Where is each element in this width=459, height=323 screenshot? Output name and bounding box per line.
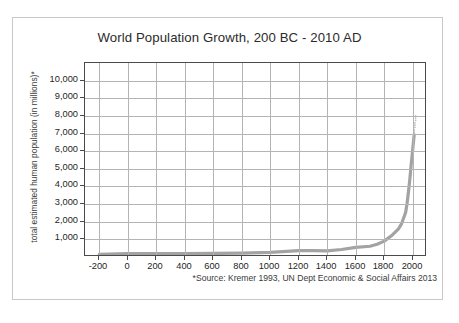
y-tick-label: 4,000 xyxy=(34,179,78,189)
y-axis-title: total estimated human population (in mil… xyxy=(27,58,41,256)
y-tick-mark xyxy=(80,185,84,186)
gridline-horizontal xyxy=(85,81,425,82)
chart-title: World Population Growth, 200 BC - 2010 A… xyxy=(0,30,459,45)
gridline-horizontal xyxy=(85,169,425,170)
y-tick-mark xyxy=(80,80,84,81)
x-tick-mark xyxy=(127,256,128,260)
y-tick-label: 9,000 xyxy=(34,91,78,101)
gridline-horizontal xyxy=(85,116,425,117)
projection-dot xyxy=(414,126,416,128)
x-tick-mark xyxy=(355,256,356,260)
y-tick-mark xyxy=(80,168,84,169)
gridline-vertical xyxy=(128,63,129,255)
y-tick-label: 10,000 xyxy=(34,74,78,84)
x-tick-mark xyxy=(383,256,384,260)
projection-dot xyxy=(414,122,416,124)
x-tick-mark xyxy=(241,256,242,260)
population-line xyxy=(99,135,414,255)
x-tick-mark xyxy=(184,256,185,260)
gridline-horizontal xyxy=(85,151,425,152)
gridline-vertical xyxy=(384,63,385,255)
plot-area xyxy=(84,62,426,256)
gridline-vertical xyxy=(299,63,300,255)
x-tick-mark xyxy=(98,256,99,260)
gridline-vertical xyxy=(185,63,186,255)
x-tick-mark xyxy=(155,256,156,260)
y-tick-label: 8,000 xyxy=(34,109,78,119)
gridline-horizontal xyxy=(85,239,425,240)
y-tick-mark xyxy=(80,203,84,204)
y-tick-label: 6,000 xyxy=(34,144,78,154)
source-note: *Source: Kremer 1993, UN Dept Economic &… xyxy=(0,273,437,283)
y-tick-mark xyxy=(80,238,84,239)
projection-dot xyxy=(415,117,417,119)
y-tick-label: 2,000 xyxy=(34,215,78,225)
gridline-vertical xyxy=(99,63,100,255)
gridline-vertical xyxy=(213,63,214,255)
x-tick-mark xyxy=(412,256,413,260)
gridline-vertical xyxy=(242,63,243,255)
y-tick-mark xyxy=(80,221,84,222)
y-tick-mark xyxy=(80,150,84,151)
y-tick-label: 7,000 xyxy=(34,127,78,137)
x-tick-mark xyxy=(269,256,270,260)
gridline-vertical xyxy=(413,63,414,255)
gridline-horizontal xyxy=(85,98,425,99)
y-tick-mark xyxy=(80,115,84,116)
x-tick-mark xyxy=(298,256,299,260)
gridline-vertical xyxy=(156,63,157,255)
projection-dot xyxy=(414,124,416,126)
y-tick-label: 5,000 xyxy=(34,162,78,172)
gridline-vertical xyxy=(270,63,271,255)
gridline-vertical xyxy=(327,63,328,255)
data-series-layer xyxy=(85,63,426,256)
x-tick-mark xyxy=(212,256,213,260)
gridline-horizontal xyxy=(85,186,425,187)
x-tick-label: 2000 xyxy=(389,261,435,271)
gridline-vertical xyxy=(356,63,357,255)
gridline-horizontal xyxy=(85,134,425,135)
gridline-horizontal xyxy=(85,204,425,205)
x-tick-mark xyxy=(326,256,327,260)
gridline-horizontal xyxy=(85,222,425,223)
y-tick-mark xyxy=(80,97,84,98)
projection-dot xyxy=(415,119,417,121)
y-tick-label: 3,000 xyxy=(34,197,78,207)
y-tick-mark xyxy=(80,133,84,134)
y-tick-label: 1,000 xyxy=(34,232,78,242)
